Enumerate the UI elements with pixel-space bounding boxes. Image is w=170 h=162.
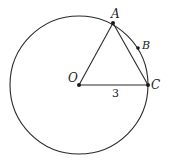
label-b: B [141, 39, 150, 52]
label-c: C [151, 78, 160, 92]
point-b [136, 46, 140, 50]
segment-oa [79, 23, 113, 85]
label-o: O [68, 71, 78, 85]
label-a: A [110, 7, 120, 21]
segment-ac [113, 23, 148, 85]
label-oc-length: 3 [112, 87, 119, 100]
point-a [111, 21, 115, 25]
point-c [146, 83, 150, 87]
circle-triangle-figure: O A B C 3 [0, 0, 170, 162]
diagram-canvas: O A B C 3 [0, 0, 170, 162]
